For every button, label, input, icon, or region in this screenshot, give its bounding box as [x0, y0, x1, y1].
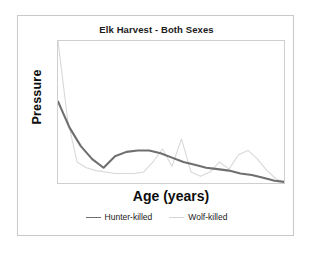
y-axis-label: Pressure: [30, 52, 44, 142]
chart-title: Elk Harvest - Both Sexes: [18, 24, 295, 35]
chart-figure: Elk Harvest - Both Sexes Pressure Age (y…: [17, 15, 294, 236]
legend-label-hunter-killed: Hunter-killed: [105, 212, 153, 222]
legend-label-wolf-killed: Wolf-killed: [188, 212, 227, 222]
legend-item-hunter-killed: Hunter-killed: [86, 212, 153, 222]
plot-area: [57, 40, 285, 184]
line-swatch-icon-hunter: [86, 217, 101, 218]
plot-svg: [58, 41, 285, 184]
x-axis-label: Age (years): [57, 188, 285, 204]
chart-legend: Hunter-killed Wolf-killed: [18, 212, 295, 222]
series-line-wolf-killed: [58, 41, 285, 182]
line-swatch-icon-wolf: [169, 217, 184, 218]
legend-item-wolf-killed: Wolf-killed: [169, 212, 227, 222]
series-line-hunter-killed: [58, 101, 285, 182]
